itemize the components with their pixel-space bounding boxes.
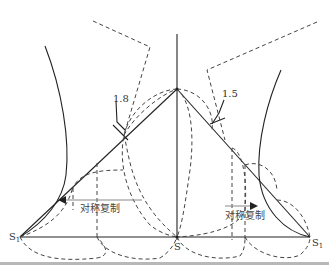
copy-label-right: 对称复制 xyxy=(225,211,265,221)
apex-point xyxy=(176,88,179,91)
point-subscript: 1 xyxy=(16,236,20,244)
point-label-s1-left: S1 xyxy=(9,232,20,245)
point-label-s1-right: S1 xyxy=(312,238,323,251)
center-point xyxy=(176,236,179,239)
point-label-s-center: S xyxy=(174,242,181,252)
right-arc-3 xyxy=(177,148,246,237)
right-curve xyxy=(259,70,310,237)
left-curve xyxy=(20,46,67,237)
bottom-loop-left xyxy=(20,237,106,259)
construction-svg xyxy=(0,0,329,270)
point-subscript: 1 xyxy=(319,242,323,250)
dim-label-left: 1.8 xyxy=(113,94,129,104)
left-inner-loop xyxy=(124,135,177,237)
right-dashed-fold xyxy=(207,22,317,140)
bottom-divider xyxy=(0,262,329,265)
leader-1-8 xyxy=(116,101,125,130)
point-letter: S xyxy=(312,237,319,248)
diagram-canvas: 1.8 1.5 对称复制 对称复制 S1 S S1 xyxy=(0,0,329,270)
bottom-loop-right xyxy=(245,237,310,258)
bottom-loop-mid-right xyxy=(177,237,245,258)
copy-label-left: 对称复制 xyxy=(80,204,120,214)
left-dashed-fold xyxy=(93,21,150,135)
left-diagonal xyxy=(20,89,177,237)
bottom-loop-mid xyxy=(97,237,177,259)
right-arrowhead-icon xyxy=(250,202,258,210)
dim-label-right: 1.5 xyxy=(222,89,238,99)
point-letter: S xyxy=(9,231,16,242)
right-loop xyxy=(177,89,192,237)
